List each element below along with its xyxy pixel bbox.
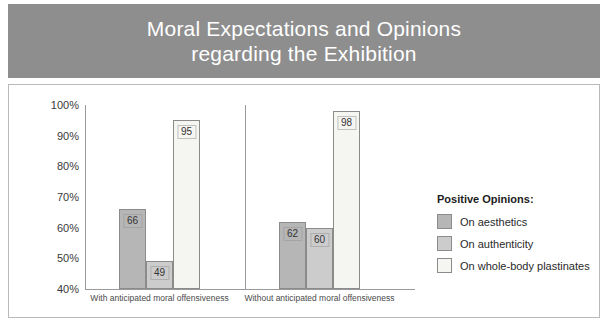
y-axis-tick-label: 40% (33, 283, 79, 295)
bar: 98 (333, 111, 360, 289)
bar: 60 (306, 228, 333, 289)
bar-value-label: 98 (337, 116, 356, 130)
x-axis-category-label: With anticipated moral offensiveness (80, 293, 240, 303)
chart-frame: 100%90%80%70%60%50%40% 664995626098 With… (8, 84, 600, 318)
group-separator-line (245, 105, 246, 290)
y-axis-tick-label: 70% (33, 191, 79, 203)
chart-page: Moral Expectations and Opinions regardin… (0, 0, 616, 336)
legend-item-label: On aesthetics (460, 216, 527, 228)
bar-value-label: 95 (177, 125, 196, 139)
legend-items: On aestheticsOn authenticityOn whole-bod… (437, 214, 597, 273)
legend-item-label: On whole-body plastinates (460, 260, 590, 272)
legend-item: On whole-body plastinates (437, 258, 597, 273)
legend-title: Positive Opinions: (437, 193, 597, 205)
y-axis-tick-label: 50% (33, 252, 79, 264)
y-axis-labels: 100%90%80%70%60%50%40% (31, 105, 79, 290)
plot-area: 664995626098 With anticipated moral offe… (85, 105, 415, 290)
title-band: Moral Expectations and Opinions regardin… (8, 4, 600, 78)
legend-swatch (437, 236, 452, 251)
bar: 66 (119, 209, 146, 289)
bar-value-label: 66 (123, 214, 142, 228)
legend: Positive Opinions: On aestheticsOn authe… (437, 193, 597, 280)
y-axis-line (85, 105, 86, 290)
legend-item: On aesthetics (437, 214, 597, 229)
bar: 95 (173, 120, 200, 289)
bar: 62 (279, 222, 306, 289)
bar-value-label: 62 (283, 227, 302, 241)
x-axis-category-label: Without anticipated moral offensiveness (240, 293, 400, 303)
y-axis-tick-label: 90% (33, 130, 79, 142)
y-axis-tick-label: 60% (33, 222, 79, 234)
page-title: Moral Expectations and Opinions regardin… (147, 16, 461, 66)
bar-value-label: 60 (310, 233, 329, 247)
legend-swatch (437, 214, 452, 229)
y-axis-tick-label: 80% (33, 160, 79, 172)
legend-swatch (437, 258, 452, 273)
legend-item-label: On authenticity (460, 238, 533, 250)
y-axis-tick-label: 100% (33, 99, 79, 111)
bar: 49 (146, 261, 173, 289)
legend-item: On authenticity (437, 236, 597, 251)
bar-value-label: 49 (150, 266, 169, 280)
x-axis-line (85, 289, 415, 290)
